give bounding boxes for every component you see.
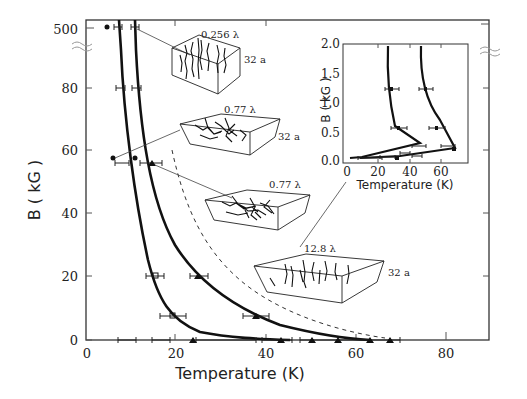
y-tick-0: 0 bbox=[70, 333, 78, 348]
box4-side-label: 32 a bbox=[388, 267, 410, 278]
y-tick-80: 80 bbox=[61, 81, 78, 96]
vortex-box-077-b bbox=[205, 190, 310, 230]
inset-chart: 2.0 1.5 1.0 0.5 0.0 0 20 40 60 Temperatu… bbox=[319, 37, 468, 192]
y-axis-title: B ( kG ) bbox=[25, 160, 44, 220]
phase-diagram-chart: 0 20 40 60 80 500 0 20 40 60 80 Temperat… bbox=[0, 0, 527, 399]
box1-top-label: 0.256 λ bbox=[201, 29, 240, 40]
inset-frame bbox=[343, 44, 468, 163]
leader-lines bbox=[115, 29, 346, 247]
inset-y-tick-2.0: 2.0 bbox=[321, 37, 340, 51]
inset-y-tick-0.0: 0.0 bbox=[321, 154, 340, 168]
lower-melting-curve bbox=[119, 20, 290, 340]
vortex-box-0256 bbox=[172, 35, 240, 94]
inset-x-tick-20: 20 bbox=[370, 165, 385, 179]
box2-side-label: 32 a bbox=[278, 131, 300, 142]
x-tick-60: 60 bbox=[348, 346, 365, 361]
y-tick-60: 60 bbox=[61, 143, 78, 158]
x-tick-80: 80 bbox=[438, 346, 455, 361]
box1-side-label: 32 a bbox=[244, 54, 266, 65]
vortex-box-128 bbox=[254, 254, 384, 303]
x-tick-20: 20 bbox=[168, 346, 185, 361]
box4-top-label: 12.8 λ bbox=[304, 243, 336, 254]
inset-x-tick-40: 40 bbox=[402, 165, 417, 179]
box2-top-label: 0.77 λ bbox=[224, 104, 256, 115]
y-axis-break-left bbox=[72, 42, 92, 51]
y-tick-40: 40 bbox=[61, 206, 78, 221]
y-tick-500: 500 bbox=[53, 22, 78, 37]
x-tick-40: 40 bbox=[258, 346, 275, 361]
inset-x-tick-0: 0 bbox=[343, 165, 351, 179]
inset-y-axis-title: B ( kG ) bbox=[319, 77, 333, 122]
y-axis-break-right bbox=[480, 47, 500, 56]
inset-x-axis-title: Temperature (K) bbox=[355, 178, 453, 192]
inset-x-tick-60: 60 bbox=[433, 165, 448, 179]
x-axis-title: Temperature (K) bbox=[174, 364, 304, 383]
y-tick-20: 20 bbox=[61, 269, 78, 284]
box3-top-label: 0.77 λ bbox=[269, 179, 301, 190]
vortex-box-077-a bbox=[180, 114, 280, 155]
x-tick-0: 0 bbox=[83, 346, 91, 361]
inset-y-tick-0.5: 0.5 bbox=[321, 126, 340, 140]
